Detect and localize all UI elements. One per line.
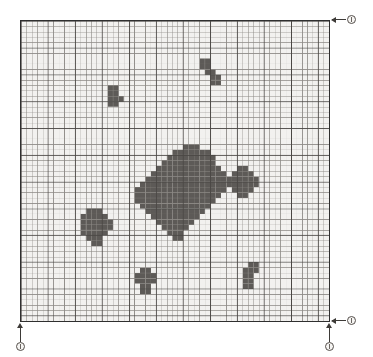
figure-canvas bbox=[0, 0, 373, 357]
corner-marker-bottom-left[interactable] bbox=[16, 342, 25, 351]
arrowhead-bottom-left bbox=[17, 323, 23, 328]
arrowhead-bottom-axis bbox=[326, 323, 332, 328]
grid-map[interactable] bbox=[20, 20, 330, 322]
corner-marker-bottom-right[interactable] bbox=[347, 316, 356, 325]
corner-marker-bottom-axis[interactable] bbox=[325, 342, 334, 351]
grid-cells-canvas[interactable] bbox=[21, 21, 329, 321]
corner-marker-top-right[interactable] bbox=[347, 15, 356, 24]
arrowhead-top-right bbox=[331, 17, 336, 23]
